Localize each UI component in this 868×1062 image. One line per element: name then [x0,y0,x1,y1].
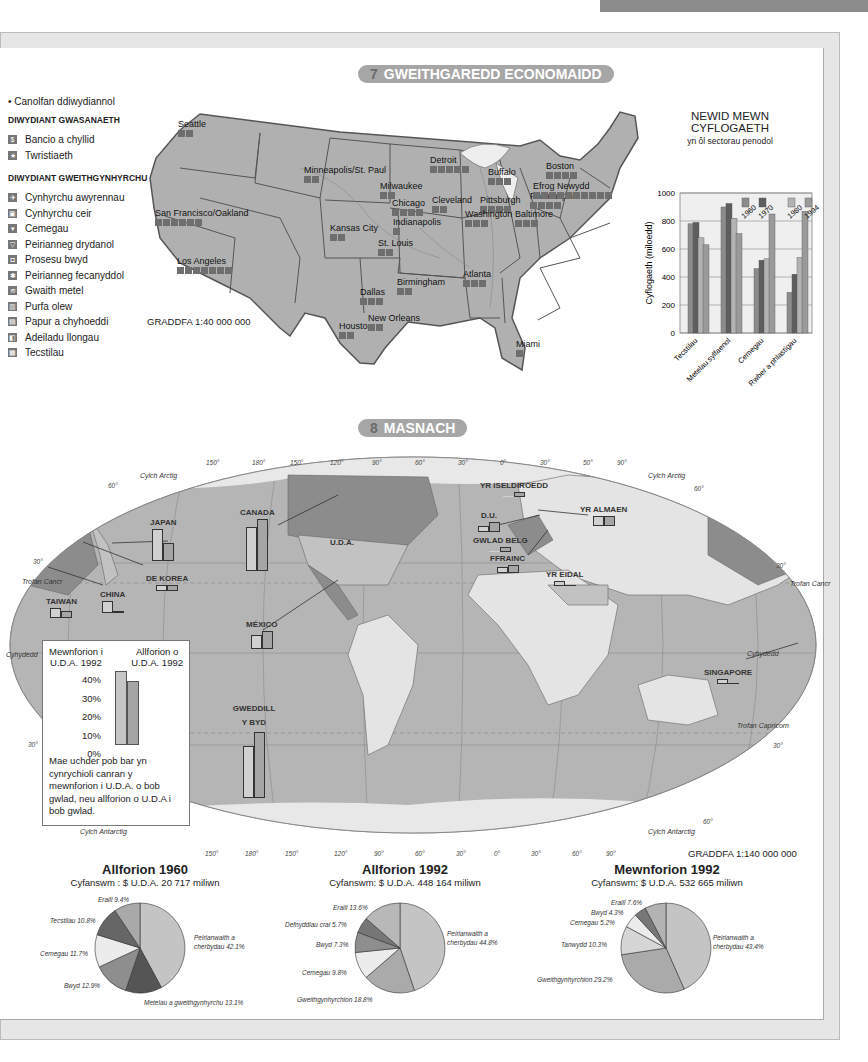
degree-label: 30° [458,459,468,466]
degree-label: 50° [583,459,593,466]
legend-item-label: Peirianneg drydanol [25,239,114,250]
industry-icon [554,202,561,209]
industry-icon [432,206,439,213]
legend-item: ▥Purfa olew [8,299,148,315]
country-name: CANADA [240,508,275,517]
textile-icon: ▦ [8,348,17,357]
industry-icon [392,209,399,216]
industry-icons [330,234,378,241]
pie-chart [94,902,194,1002]
pie-total: Cyfanswm: $ U.D.A. 448 164 miliwn [290,877,520,888]
industry-icon [465,220,472,227]
map-line-label: Trofan Cancr [22,578,62,585]
city-name: Kansas City [330,223,378,233]
industry-icon [400,209,407,216]
inset-exports-bar [127,681,139,745]
legend-item: ◘Prosesu bwyd [8,252,148,268]
city-marker: Indianapolis [393,217,441,235]
industry-icon [201,267,208,274]
industry-icon [562,172,569,179]
industry-icon [171,219,178,226]
trade-bars [490,565,525,573]
industry-icon [393,228,400,235]
imports-bar [246,527,257,571]
industry-icon [473,220,480,227]
dollar-icon: $ [8,135,17,144]
pie-slice-label: Peirianwaith a [713,934,754,941]
industry-icons [530,202,579,209]
trade-bars [146,585,188,591]
industry-icon [155,219,162,226]
country-trade-marker: CHINA [100,590,125,613]
inset-imports-bar [115,671,127,745]
industry-icon [605,192,612,199]
industry-icon [368,324,375,331]
legend-item-label: Gwaith metel [25,285,83,296]
legend-item-label: Papur a chyhoeddi [25,316,108,327]
pie-title: Allforion 1992 [290,862,520,877]
city-name: St. Louis [378,238,413,248]
industry-icon [339,332,346,339]
city-marker: Miami [516,339,540,357]
pie-total: Cyfanswm: $ U.D.A. 532 665 miliwn [552,877,782,888]
pie-slice-label: Gweithgynhyrchion 18.8% [297,996,373,1003]
industry-icon [408,209,415,216]
degree-label: 60° [572,850,582,857]
imports-bar [478,526,489,532]
city-name: Buffalo [488,167,516,177]
city-marker: Dallas [360,287,385,305]
pie-slice-label: Cemegau 11.7% [40,950,88,957]
country-trade-marker: YR ALMAEN [580,505,627,526]
trade-bars [704,679,752,684]
exports-bar [728,683,739,684]
country-trade-marker: GWEDDILL Y BYD [232,702,276,798]
map-line-label: Cyhydedd [6,651,38,658]
city-marker: Los Angeles [177,256,232,274]
industry-icon [570,172,577,179]
city-marker: Birmingham [397,277,445,295]
imports-bar [503,496,514,497]
exports-bar [262,631,273,649]
imports-bar [251,635,262,649]
exports-bar [113,611,124,613]
legend-item-label: Prosesu bwyd [25,254,88,265]
svg-text:600: 600 [662,245,676,254]
country-trade-marker: CANADA [240,508,275,571]
city-name: Detroit [430,155,469,165]
country-trade-marker: U.D.A. [330,538,354,547]
city-name: Seattle [178,119,206,129]
exports-bar [167,585,178,591]
employment-chart: NEWID MEWN CYFLOGAETH yn ôl sectorau pen… [640,110,820,410]
degree-label: 30° [531,850,541,857]
industry-icons [515,220,553,227]
map-line-label: Trofan Cancr [790,580,830,587]
country-trade-marker: JAPAN [150,518,177,561]
industry-icons [397,288,445,295]
industry-icon [225,267,232,274]
degree-label: 90° [617,459,627,466]
country-name: D.U. [478,511,500,520]
industry-icon [376,324,383,331]
industry-icon [397,288,404,295]
legend-item: ▾Cemegau [8,221,148,237]
pie-slice-label: Eraill 9.4% [98,896,129,903]
exports-bar [257,519,268,571]
city-name: Minneapolis/St. Paul [304,165,386,175]
car-icon: ▣ [8,209,17,218]
country-name: YR EIDAL [546,570,583,579]
legend-item-label: Cynhyrchu ceir [25,208,92,219]
country-name: GWLAD BELG [473,536,528,545]
exports-bar [489,522,500,532]
exports-bar [565,585,576,586]
degree-label: 150° [206,459,219,466]
degree-label: 60° [415,850,425,857]
industry-icons [304,176,386,183]
trade-bars [100,601,125,613]
country-name: TAIWAN [46,597,77,606]
trade-bars [580,516,627,526]
legend-service-header: DIWYDIANT GWASANAETH [8,115,148,125]
trade-bars [150,529,177,561]
legend-item: ▤Papur a chyhoeddi [8,314,148,330]
imports-bar [152,529,163,561]
legend-item: ✈Cynhyrchu awyrennau [8,190,148,206]
